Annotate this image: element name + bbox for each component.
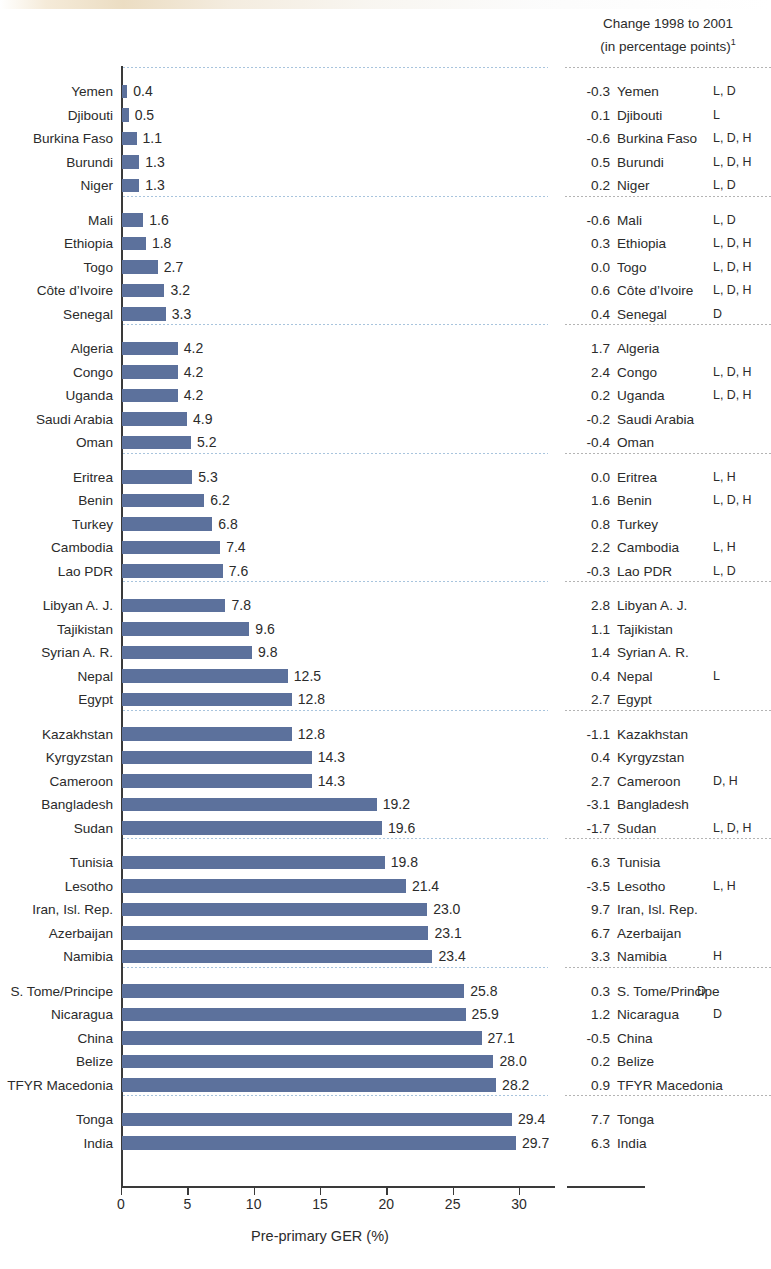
change-country-label: Saudi Arabia: [617, 408, 694, 431]
category-label: Cameroon: [0, 770, 113, 793]
category-label: China: [0, 1027, 113, 1050]
bar-value-label: 1.3: [145, 174, 164, 197]
change-flags: L, D, H: [713, 151, 752, 174]
category-label: S. Tome/Principe: [0, 980, 113, 1003]
change-value: 0.4: [558, 746, 610, 769]
change-country-label: Bangladesh: [617, 793, 689, 816]
bar-value-label: 29.7: [522, 1132, 549, 1155]
category-label: Namibia: [0, 945, 113, 968]
bar-value-label: 9.6: [255, 618, 274, 641]
x-axis-tick: [386, 1187, 387, 1195]
bar-value-label: 12.8: [298, 688, 325, 711]
change-value: 1.6: [558, 489, 610, 512]
bar-value-label: 25.8: [470, 980, 497, 1003]
chart-row: Yemen0.4-0.3YemenL, D: [0, 80, 771, 103]
category-label: Nepal: [0, 665, 113, 688]
change-flags: L, H: [713, 536, 736, 559]
category-label: Nicaragua: [0, 1003, 113, 1026]
chart-row: Turkey6.80.8Turkey: [0, 513, 771, 536]
bar: [122, 774, 312, 788]
change-value: 1.4: [558, 641, 610, 664]
change-flags: L, D, H: [713, 361, 752, 384]
category-label: Iran, Isl. Rep.: [0, 898, 113, 921]
change-country-label: Burundi: [617, 151, 664, 174]
x-axis-line: [121, 1186, 555, 1188]
bar: [122, 85, 127, 99]
bar: [122, 727, 292, 741]
bar: [122, 436, 191, 450]
change-flags: D: [697, 980, 706, 1003]
chart-row: Eritrea5.30.0EritreaL, H: [0, 466, 771, 489]
change-value: 0.4: [558, 303, 610, 326]
change-value: 9.7: [558, 898, 610, 921]
chart-row: Kyrgyzstan14.30.4Kyrgyzstan: [0, 746, 771, 769]
change-value: 2.4: [558, 361, 610, 384]
bar: [122, 903, 427, 917]
category-label: Algeria: [0, 337, 113, 360]
bar: [122, 1008, 466, 1022]
category-label: Togo: [0, 256, 113, 279]
bar-value-label: 21.4: [412, 875, 439, 898]
x-axis-line-right-panel: [567, 1186, 645, 1188]
change-value: 1.7: [558, 337, 610, 360]
category-label: Tajikistan: [0, 618, 113, 641]
change-flags: L, D, H: [713, 489, 752, 512]
bar-value-label: 3.3: [172, 303, 191, 326]
category-label: Niger: [0, 174, 113, 197]
category-label: Belize: [0, 1050, 113, 1073]
change-country-label: Algeria: [617, 337, 659, 360]
bar: [122, 1031, 482, 1045]
change-country-label: Mali: [617, 209, 642, 232]
x-axis-tick: [519, 1187, 520, 1195]
change-country-label: China: [617, 1027, 653, 1050]
change-country-label: Benin: [617, 489, 652, 512]
category-label: Kazakhstan: [0, 723, 113, 746]
bar: [122, 213, 143, 227]
bar-value-label: 4.9: [193, 408, 212, 431]
bar-value-label: 29.4: [518, 1108, 545, 1131]
bar-value-label: 14.3: [318, 770, 345, 793]
bar: [122, 926, 428, 940]
bar-value-label: 19.6: [388, 817, 415, 840]
x-axis-tick: [320, 1187, 321, 1195]
bar: [122, 494, 204, 508]
change-value: -0.4: [558, 431, 610, 454]
category-label: Yemen: [0, 80, 113, 103]
change-country-label: Tajikistan: [617, 618, 673, 641]
bar-value-label: 4.2: [184, 337, 203, 360]
category-label: Sudan: [0, 817, 113, 840]
change-flags: L, H: [713, 875, 736, 898]
change-flags: L, D: [713, 174, 736, 197]
category-label: Egypt: [0, 688, 113, 711]
category-label: Bangladesh: [0, 793, 113, 816]
chart-row: Tunisia19.86.3Tunisia: [0, 851, 771, 874]
chart-row: Mali1.6-0.6MaliL, D: [0, 209, 771, 232]
change-value: 0.1: [558, 104, 610, 127]
chart-row: Lesotho21.4-3.5LesothoL, H: [0, 875, 771, 898]
change-country-label: Syrian A. R.: [617, 641, 689, 664]
change-country-label: Kazakhstan: [617, 723, 688, 746]
category-label: Oman: [0, 431, 113, 454]
chart-row: Ethiopia1.80.3EthiopiaL, D, H: [0, 232, 771, 255]
bar: [122, 412, 187, 426]
bar: [122, 622, 249, 636]
change-column-header: Change 1998 to 2001 (in percentage point…: [565, 14, 771, 56]
change-flags: L: [713, 665, 720, 688]
chart-row: Congo4.22.4CongoL, D, H: [0, 361, 771, 384]
change-value: 3.3: [558, 945, 610, 968]
change-country-label: Djibouti: [617, 104, 662, 127]
bar: [122, 179, 139, 193]
chart-row: Niger1.30.2NigerL, D: [0, 174, 771, 197]
change-country-label: Kyrgyzstan: [617, 746, 684, 769]
category-label: Azerbaijan: [0, 922, 113, 945]
category-label: Benin: [0, 489, 113, 512]
category-label: Senegal: [0, 303, 113, 326]
category-label: Djibouti: [0, 104, 113, 127]
bar-value-label: 1.6: [149, 209, 168, 232]
change-flags: D, H: [713, 770, 738, 793]
bar: [122, 108, 129, 122]
bar: [122, 155, 139, 169]
chart-row: Syrian A. R.9.81.4Syrian A. R.: [0, 641, 771, 664]
bar: [122, 751, 312, 765]
change-value: 0.0: [558, 466, 610, 489]
